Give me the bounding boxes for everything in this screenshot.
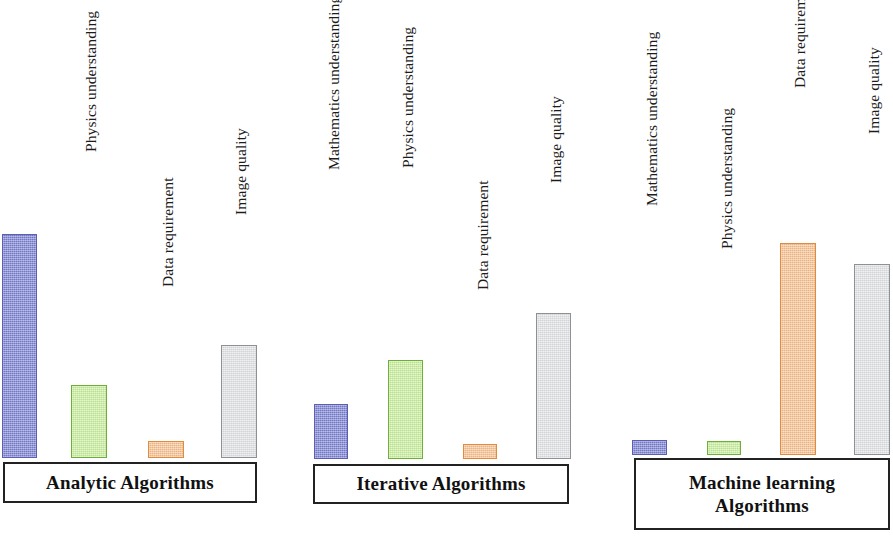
bar-analytic-mathematics-understanding [2, 234, 37, 458]
group-caption-label-iterative: Iterative Algorithms [356, 472, 525, 495]
bar-machine-learning-physics-understanding [707, 441, 741, 455]
bar-iterative-physics-understanding [388, 360, 423, 459]
bar-iterative-data-requirement [463, 444, 497, 459]
group-caption-label-machine-learning: Machine learning Algorithms [689, 471, 835, 517]
bar-machine-learning-image-quality [854, 264, 890, 455]
bar-machine-learning-data-requirement [780, 243, 816, 455]
group-caption-box-iterative: Iterative Algorithms [313, 464, 569, 504]
bar-analytic-image-quality [221, 345, 257, 458]
bar-iterative-image-quality [536, 313, 571, 459]
group-caption-box-machine-learning: Machine learning Algorithms [634, 458, 890, 530]
group-caption-line-2: Algorithms [715, 495, 809, 516]
bar-analytic-physics-understanding [71, 385, 107, 458]
bar-analytic-data-requirement [148, 441, 184, 458]
bar-machine-learning-mathematics-understanding [632, 440, 667, 455]
group-caption-box-analytic: Analytic Algorithms [3, 462, 257, 503]
group-caption-line-1: Machine learning [689, 472, 835, 493]
bar-chart: Mathematics understanding Physics unders… [0, 0, 893, 536]
group-caption-label-analytic: Analytic Algorithms [46, 471, 214, 494]
bar-iterative-mathematics-understanding [314, 404, 348, 459]
